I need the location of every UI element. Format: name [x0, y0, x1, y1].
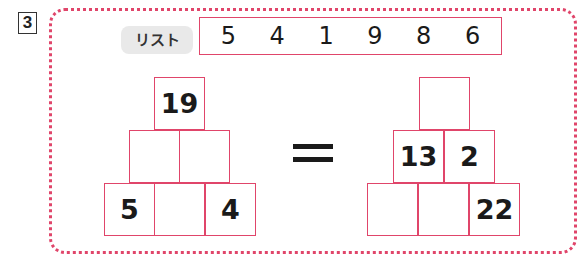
list-number: 9: [360, 22, 390, 50]
pyramid-cell-bottom[interactable]: 4: [205, 183, 256, 236]
equals-sign: [293, 144, 333, 164]
pyramid-cell-top[interactable]: 19: [154, 77, 205, 130]
pyramid-cell-middle[interactable]: 2: [444, 130, 495, 183]
list-number: 8: [409, 22, 439, 50]
pyramid-cell-top[interactable]: [419, 77, 470, 130]
pyramid-cell-bottom[interactable]: [367, 183, 418, 236]
pyramid-cell-bottom[interactable]: [154, 183, 205, 236]
list-number: 5: [213, 22, 243, 50]
list-number: 1: [311, 22, 341, 50]
pyramid-cell-middle[interactable]: [129, 130, 180, 183]
pyramid-cell-bottom[interactable]: [418, 183, 469, 236]
number-list: 5 4 1 9 8 6: [199, 17, 502, 55]
pyramid-cell-middle[interactable]: 13: [393, 130, 444, 183]
list-label: リスト: [121, 26, 193, 54]
list-number: 4: [262, 22, 292, 50]
list-number: 6: [458, 22, 488, 50]
pyramid-cell-bottom[interactable]: 22: [469, 183, 520, 236]
question-number: 3: [18, 12, 37, 34]
pyramid-cell-middle[interactable]: [179, 130, 230, 183]
pyramid-cell-bottom[interactable]: 5: [104, 183, 155, 236]
